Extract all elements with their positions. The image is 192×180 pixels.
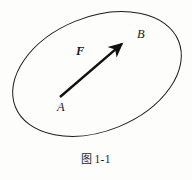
closed-curve-group: [0, 0, 192, 160]
closed-curve-path: [0, 0, 192, 160]
figure-caption-number: 1-1: [95, 153, 111, 165]
point-label-b: B: [137, 28, 145, 41]
figure-container: A B F 图1-1: [0, 0, 192, 180]
vector-label-f: F: [76, 45, 84, 58]
figure-caption: 图1-1: [0, 150, 192, 166]
figure-caption-cjk: 图: [81, 153, 92, 166]
point-label-a: A: [57, 101, 65, 114]
force-vector-arrow-group: [60, 44, 122, 97]
force-vector-arrow: [60, 44, 122, 97]
